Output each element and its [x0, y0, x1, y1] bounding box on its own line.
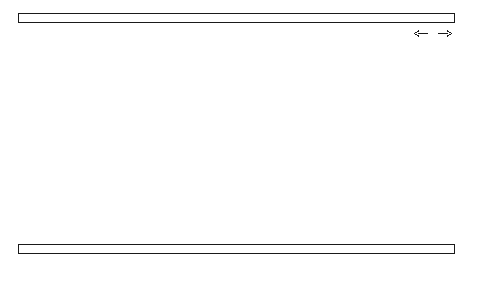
bottom-ruler — [19, 245, 455, 254]
bottom-ruler-bar — [19, 245, 455, 254]
nmr-spectrum-figure — [0, 0, 487, 284]
spectrum-canvas — [0, 0, 487, 284]
sweep-direction-marker — [414, 31, 452, 36]
top-ruler-bar — [19, 14, 455, 23]
top-ruler — [19, 14, 455, 23]
